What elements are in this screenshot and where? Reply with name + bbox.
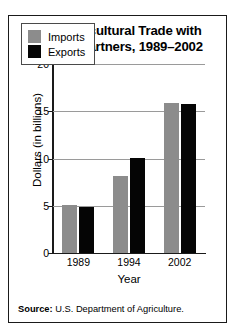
source-note: Source: U.S. Department of Agriculture. (18, 304, 184, 314)
x-axis-tick-label-2002: 2002 (157, 256, 203, 268)
y-axis-tick-label: 15 (23, 105, 49, 117)
bar-imports-2002 (164, 103, 179, 253)
source-label: Source: (18, 304, 53, 314)
y-axis-tick-labels: 05101520 (19, 64, 49, 253)
x-axis-tick-label-1989: 1989 (55, 256, 101, 268)
bar-exports-1989 (79, 207, 94, 253)
legend-item-imports: Imports (28, 29, 85, 44)
y-axis-tick (48, 159, 53, 160)
y-axis-tick-label: 5 (23, 200, 49, 212)
source-text: U.S. Department of Agriculture. (55, 304, 184, 314)
bar-imports-1989 (62, 205, 77, 253)
bar-exports-2002 (181, 104, 196, 253)
legend-swatch-imports-icon (28, 30, 41, 43)
y-axis-tick-label: 10 (23, 153, 49, 165)
chart-figure: U.S. Agricultural Trade with NAFTA Partn… (8, 15, 227, 323)
x-axis-tick-labels: 198919942002 (53, 256, 205, 270)
legend-label-exports: Exports (48, 46, 85, 58)
bar-group-1989 (62, 64, 94, 253)
legend-item-exports: Exports (28, 44, 85, 59)
chart-legend: ImportsExports (21, 23, 95, 65)
legend-label-imports: Imports (48, 31, 85, 43)
bar-imports-1994 (113, 176, 128, 253)
y-axis-tick (48, 111, 53, 112)
x-axis-tick-label-1994: 1994 (106, 256, 152, 268)
legend-swatch-exports-icon (28, 45, 41, 58)
bar-group-1994 (113, 64, 145, 253)
y-axis-tick (48, 253, 53, 254)
bar-group-2002 (164, 64, 196, 253)
plot-area (53, 64, 205, 253)
bar-exports-1994 (130, 158, 145, 253)
x-axis-title: Year (53, 273, 205, 285)
y-axis-tick-label: 0 (23, 247, 49, 259)
y-axis-tick (48, 206, 53, 207)
